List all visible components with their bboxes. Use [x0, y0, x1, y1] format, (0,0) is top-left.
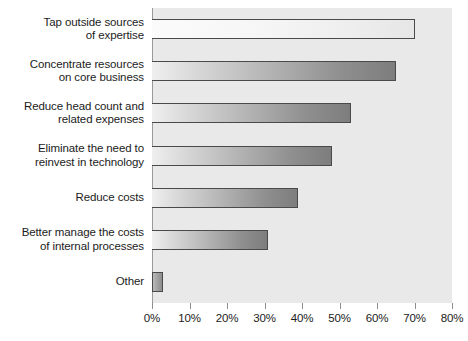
x-axis-tick [377, 303, 378, 309]
bar [152, 272, 163, 292]
category-label: Concentrate resources on core business [4, 58, 144, 85]
category-label: Reduce head count and related expenses [4, 100, 144, 127]
category-label: Tap outside sources of expertise [4, 16, 144, 43]
bar [152, 61, 396, 81]
x-axis-tick-label: 20% [207, 312, 247, 324]
bar-row [152, 188, 452, 208]
bar [152, 188, 298, 208]
x-axis-tick [190, 303, 191, 309]
x-axis-tick-label: 70% [395, 312, 435, 324]
bar-row [152, 146, 452, 166]
x-axis-tick-label: 40% [282, 312, 322, 324]
x-axis-tick [452, 303, 453, 309]
category-label: Reduce costs [4, 191, 144, 205]
category-label: Better manage the costs of internal proc… [4, 226, 144, 253]
x-axis-tick-label: 60% [357, 312, 397, 324]
x-axis-tick-label: 30% [245, 312, 285, 324]
x-axis-tick [227, 303, 228, 309]
x-axis-tick-label: 50% [320, 312, 360, 324]
x-axis-tick-label: 0% [132, 312, 172, 324]
bar-row [152, 19, 452, 39]
x-axis-tick-label: 80% [432, 312, 468, 324]
category-label: Other [4, 275, 144, 289]
bar-row [152, 230, 452, 250]
bar [152, 230, 268, 250]
x-axis-tick [415, 303, 416, 309]
bar [152, 103, 351, 123]
bar [152, 19, 415, 39]
x-axis-tick [340, 303, 341, 309]
category-label: Eliminate the need to reinvest in techno… [4, 142, 144, 169]
bar-row [152, 272, 452, 292]
bar-row [152, 61, 452, 81]
bar [152, 146, 332, 166]
x-axis-tick [152, 303, 153, 309]
x-axis-tick-label: 10% [170, 312, 210, 324]
x-axis-tick [265, 303, 266, 309]
x-axis-tick [302, 303, 303, 309]
bar-row [152, 103, 452, 123]
